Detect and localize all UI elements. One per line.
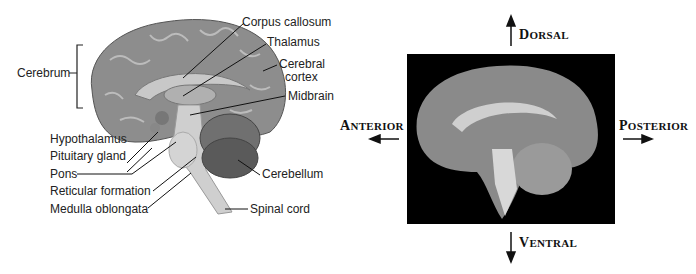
label-hypothalamus: Hypothalamus — [50, 133, 127, 146]
label-dorsal: DORSAL — [519, 27, 569, 43]
label-cerebrum: Cerebrum — [17, 67, 70, 80]
label-anterior: ANTERIOR — [340, 118, 404, 134]
label-midbrain: Midbrain — [288, 90, 334, 103]
label-medulla-oblongata: Medulla oblongata — [50, 203, 148, 216]
label-spinal-cord: Spinal cord — [250, 203, 310, 216]
label-pons: Pons — [50, 168, 77, 181]
label-ventral: VENTRAL — [519, 235, 577, 251]
label-cerebral-cortex-2: cortex — [285, 71, 318, 84]
label-thalamus: Thalamus — [267, 36, 320, 49]
label-corpus-callosum: Corpus callosum — [242, 16, 331, 29]
label-reticular-formation: Reticular formation — [50, 185, 151, 198]
label-pituitary-gland: Pituitary gland — [50, 150, 126, 163]
brain-photo — [407, 54, 615, 224]
label-cerebellum: Cerebellum — [262, 168, 323, 181]
label-posterior: POSTERIOR — [619, 118, 688, 134]
